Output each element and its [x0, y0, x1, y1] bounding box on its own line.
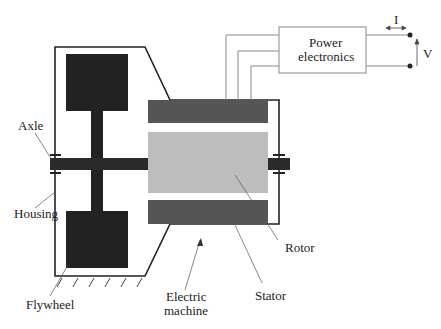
rotor: [148, 132, 268, 193]
ground-hatch: [57, 278, 142, 287]
terminal-top: [408, 33, 413, 38]
label-rotor: Rotor: [285, 240, 315, 255]
stator-top: [148, 100, 268, 123]
electric-machine-arrowhead: [197, 238, 203, 246]
label-stator: Stator: [255, 288, 287, 303]
terminal-bottom: [408, 64, 413, 69]
electric-machine: [148, 100, 268, 224]
stator-bottom: [148, 200, 268, 224]
label-current: I: [394, 12, 398, 27]
label-electric-machine-2: machine: [164, 303, 208, 318]
voltage-arrow-icon: [415, 39, 419, 66]
label-electric-machine-1: Electric: [166, 289, 207, 304]
label-power-electronics-2: electronics: [298, 49, 354, 64]
label-power-electronics-1: Power: [309, 35, 343, 50]
label-housing: Housing: [14, 206, 59, 221]
label-flywheel: Flywheel: [26, 297, 75, 312]
flywheel-diagram: Axle Housing Flywheel Electric machine R…: [0, 0, 441, 329]
label-voltage: V: [423, 46, 433, 61]
label-axle: Axle: [18, 118, 44, 133]
